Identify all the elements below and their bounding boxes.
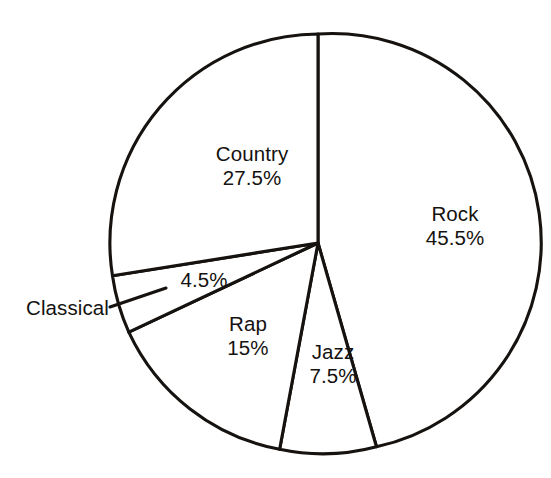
pie-chart-figure: Country 27.5% Rock 45.5% Rap 15% Jazz 7.… [0,0,551,478]
slice-label-rock: Rock 45.5% [400,202,510,250]
slice-label-country-name: Country [196,142,308,166]
slice-label-rock-name: Rock [400,202,510,226]
slice-label-country: Country 27.5% [196,142,308,190]
slice-label-jazz-value: 7.5% [292,364,374,388]
slice-label-jazz-name: Jazz [292,340,374,364]
slice-label-classical: Classical [26,296,110,320]
slice-label-rap-name: Rap [205,312,291,336]
slice-label-classical-value: 4.5% [172,268,236,292]
slice-label-country-value: 27.5% [196,166,308,190]
slice-label-classical-value-callout: 4.5% [172,268,236,292]
slice-label-rap-value: 15% [205,336,291,360]
slice-label-classical-name: Classical [26,296,110,320]
slice-label-jazz: Jazz 7.5% [292,340,374,388]
slice-label-rock-value: 45.5% [400,226,510,250]
slice-label-rap: Rap 15% [205,312,291,360]
